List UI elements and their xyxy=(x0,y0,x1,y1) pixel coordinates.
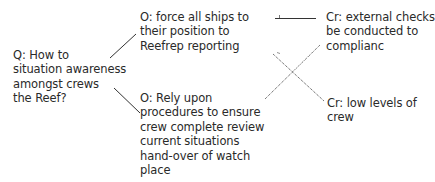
option-node-1: O: force all ships to their position to … xyxy=(140,10,249,53)
option-line: O: force all ships to xyxy=(140,10,249,24)
question-line: Q: How to xyxy=(13,48,126,62)
option-line: current situations xyxy=(140,134,264,148)
question-line: amongst crews xyxy=(13,77,126,91)
option-line: hand-over of watch xyxy=(140,149,264,163)
option-line: procedures to ensure xyxy=(140,105,264,119)
question-node: Q: How to situation awareness amongst cr… xyxy=(13,48,126,106)
criterion-node-2: Cr: low levels of crew xyxy=(327,96,417,125)
criterion-line: crew xyxy=(327,110,417,124)
option-line: place xyxy=(140,163,264,177)
minus-tick-mark xyxy=(277,53,280,54)
question-line: situation awareness xyxy=(13,62,126,76)
option-line: O: Rely upon xyxy=(140,91,264,105)
criterion-line: complianc xyxy=(326,39,435,53)
option-line: their position to xyxy=(140,24,249,38)
option-node-2: O: Rely upon procedures to ensure crew c… xyxy=(140,91,264,177)
criterion-node-1: Cr: external checks be conducted to comp… xyxy=(326,10,435,53)
criterion-line: be conducted to xyxy=(326,24,435,38)
question-line: the Reef? xyxy=(13,91,126,105)
option-line: crew complete review xyxy=(140,120,264,134)
criterion-line: Cr: low levels of xyxy=(327,96,417,110)
option-line: Reefrep reporting xyxy=(140,39,249,53)
link-option-1-to-criterion-2-dotted xyxy=(273,54,324,101)
criterion-line: Cr: external checks xyxy=(326,10,435,24)
